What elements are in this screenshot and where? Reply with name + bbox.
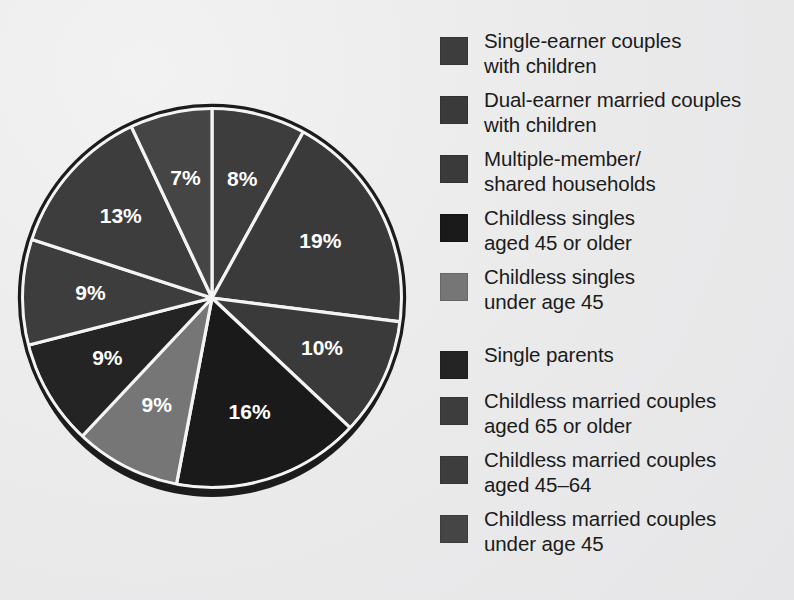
legend-swatch-icon (440, 214, 468, 242)
legend-item-single-parents[interactable]: Single parents (440, 342, 786, 379)
page-root: 8%19%10%16%9%9%9%13%7% Single-earner cou… (0, 0, 794, 600)
legend-item-childless-married-couples-45-64[interactable]: Childless married couples aged 45–64 (440, 447, 786, 497)
pie-chart-svg: 8%19%10%16%9%9%9%13%7% (0, 0, 430, 600)
slice-single-earner-couples-with-children-label: 8% (227, 167, 258, 190)
slice-childless-married-couples-65-or-older-label: 9% (75, 281, 106, 304)
slice-dual-earner-married-couples-with-children-label: 19% (299, 229, 341, 252)
pie-chart-figure: 8%19%10%16%9%9%9%13%7% (0, 0, 430, 600)
legend-item-label: Multiple-member/ shared households (484, 146, 656, 196)
legend-item-childless-singles-45-or-older[interactable]: Childless singles aged 45 or older (440, 205, 786, 255)
legend-item-single-earner-couples-with-children[interactable]: Single-earner couples with children (440, 28, 786, 78)
legend-item-label: Childless singles aged 45 or older (484, 205, 635, 255)
slice-childless-singles-45-or-older-label: 16% (229, 400, 271, 423)
legend-swatch-icon (440, 155, 468, 183)
legend-item-childless-married-couples-under-45[interactable]: Childless married couples under age 45 (440, 506, 786, 556)
legend-item-childless-married-couples-65-or-older[interactable]: Childless married couples aged 65 or old… (440, 388, 786, 438)
legend-item-label: Childless married couples aged 45–64 (484, 447, 716, 497)
legend-swatch-icon (440, 273, 468, 301)
slice-childless-singles-under-45-label: 9% (142, 393, 173, 416)
legend-swatch-icon (440, 515, 468, 543)
chart-legend: Single-earner couples with childrenDual-… (440, 28, 786, 565)
legend-item-label: Childless married couples aged 65 or old… (484, 388, 716, 438)
legend-swatch-icon (440, 397, 468, 425)
slice-multiple-member-shared-households-label: 10% (301, 336, 343, 359)
slice-childless-married-couples-45-64-label: 13% (100, 204, 142, 227)
legend-item-childless-singles-under-45[interactable]: Childless singles under age 45 (440, 264, 786, 314)
legend-item-label: Single parents (484, 342, 614, 367)
slice-single-parents-label: 9% (92, 346, 123, 369)
legend-item-multiple-member-shared-households[interactable]: Multiple-member/ shared households (440, 146, 786, 196)
legend-swatch-icon (440, 37, 468, 65)
legend-item-dual-earner-married-couples-with-children[interactable]: Dual-earner married couples with childre… (440, 87, 786, 137)
legend-item-label: Single-earner couples with children (484, 28, 681, 78)
slice-childless-married-couples-under-45-label: 7% (170, 166, 201, 189)
legend-item-label: Childless singles under age 45 (484, 264, 635, 314)
legend-swatch-icon (440, 456, 468, 484)
legend-item-label: Childless married couples under age 45 (484, 506, 716, 556)
legend-swatch-icon (440, 96, 468, 124)
legend-item-label: Dual-earner married couples with childre… (484, 87, 741, 137)
legend-swatch-icon (440, 351, 468, 379)
